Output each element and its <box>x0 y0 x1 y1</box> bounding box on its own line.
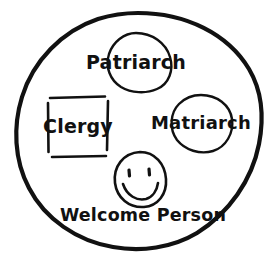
node-clergy[interactable]: Clergy <box>43 97 113 158</box>
node-welcome-person[interactable]: Welcome Person <box>60 152 226 225</box>
patriarch-label: Patriarch <box>86 51 186 73</box>
node-patriarch[interactable]: Patriarch <box>86 33 186 92</box>
smiley-left-eye-icon <box>129 170 130 176</box>
clergy-label: Clergy <box>43 115 113 137</box>
matriarch-label: Matriarch <box>151 112 251 133</box>
welcome-person-label: Welcome Person <box>60 205 226 225</box>
smiley-mouth-icon <box>123 183 158 199</box>
smiley-right-eye-icon <box>149 169 150 175</box>
community-circle-diagram: Patriarch Clergy Matriarch Welcome Perso… <box>0 0 276 269</box>
node-matriarch[interactable]: Matriarch <box>151 95 251 152</box>
diagram-canvas: Patriarch Clergy Matriarch Welcome Perso… <box>0 0 276 269</box>
